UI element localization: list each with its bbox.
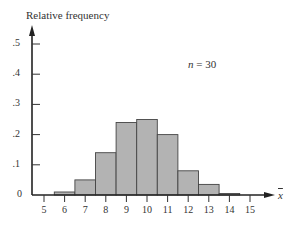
x-axis-arrow-icon	[264, 192, 275, 198]
x-tick-label: 14	[219, 204, 239, 215]
bar-9	[116, 123, 137, 196]
bar-8	[96, 153, 117, 195]
bars-group	[54, 120, 239, 196]
y-tick-label: 0	[8, 188, 22, 199]
n-value: = 30	[194, 58, 217, 70]
y-tick-label: .4	[6, 67, 20, 78]
bar-10	[137, 120, 158, 196]
y-axis-label: Relative frequency	[26, 9, 109, 21]
x-tick-label: 6	[55, 204, 75, 215]
y-axis-arrow-icon	[29, 25, 35, 36]
y-tick-label: .3	[6, 97, 20, 108]
x-tick-label: 15	[240, 204, 260, 215]
x-tick-label: 12	[178, 204, 198, 215]
sample-size-annotation: n = 30	[188, 58, 216, 70]
histogram-chart	[0, 0, 300, 230]
x-tick-label: 5	[34, 204, 54, 215]
x-ticks-group	[44, 195, 250, 202]
y-tick-label: .5	[6, 37, 20, 48]
x-tick-label: 10	[137, 204, 157, 215]
x-tick-label: 8	[96, 204, 116, 215]
bar-12	[178, 171, 199, 195]
x-tick-label: 13	[199, 204, 219, 215]
y-ticks-group	[32, 44, 40, 165]
x-tick-label: 11	[158, 204, 178, 215]
y-tick-label: .1	[6, 158, 20, 169]
bar-11	[157, 135, 178, 195]
bar-7	[75, 180, 96, 195]
x-axis-label: x	[278, 189, 283, 201]
x-tick-label: 9	[116, 204, 136, 215]
x-tick-label: 7	[75, 204, 95, 215]
y-tick-label: .2	[6, 128, 20, 139]
bar-13	[199, 184, 220, 195]
